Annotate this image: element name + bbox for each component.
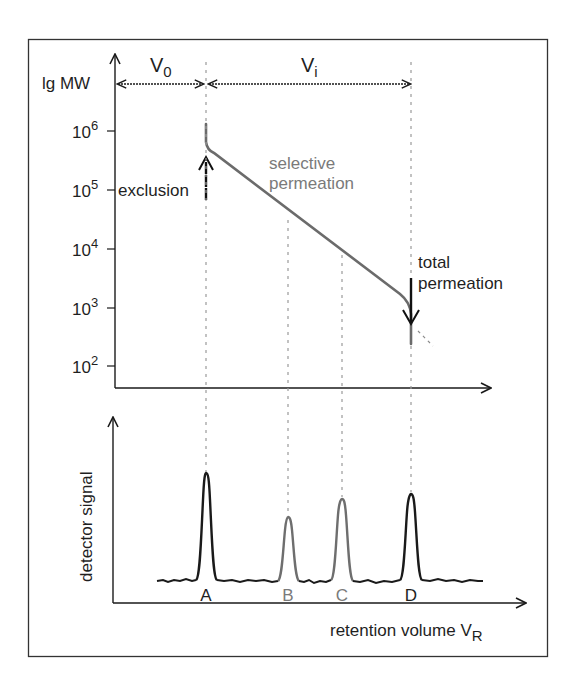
tick-label-1e3: 103 [72, 295, 98, 319]
tick-label-1e4: 104 [72, 236, 98, 260]
sec-diagram: 106 105 104 103 102 lg MW V0 Vi exclusio… [0, 0, 571, 686]
bottom-y-label: detector signal [77, 471, 96, 582]
curve-extrapolation [418, 331, 433, 346]
bottom-x-label: retention volume VR [330, 621, 483, 644]
peak-label-b: B [282, 586, 293, 605]
chromatogram-baseline-right [422, 579, 483, 582]
chromatogram-baseline-ab [217, 580, 278, 582]
y-ticks [107, 131, 115, 366]
peak-c [331, 499, 353, 581]
total-permeation-label-2: permeation [418, 274, 503, 293]
guide-lines [206, 62, 411, 514]
chromatogram-baseline-left [157, 579, 196, 582]
top-y-label: lg MW [42, 74, 90, 93]
v0-label: V0 [150, 54, 172, 80]
tick-label-1e2: 102 [72, 353, 98, 377]
peak-label-d: D [405, 586, 417, 605]
total-permeation-label-1: total [418, 253, 450, 272]
chromatogram-baseline-cd [353, 580, 400, 583]
exclusion-label: exclusion [118, 181, 189, 200]
tick-label-1e6: 106 [72, 118, 98, 142]
top-panel: 106 105 104 103 102 lg MW V0 Vi exclusio… [42, 54, 503, 388]
vi-label: Vi [301, 54, 318, 80]
selective-permeation-label-2: permeation [269, 174, 354, 193]
peak-a [196, 473, 217, 580]
peak-b [278, 517, 299, 581]
bottom-panel: detector signal A B C D retention volume… [77, 418, 525, 644]
peak-label-c: C [336, 586, 348, 605]
peak-d [400, 494, 422, 580]
y-tick-labels: 106 105 104 103 102 [72, 118, 98, 377]
chromatogram-baseline-bc [299, 580, 331, 583]
peak-label-a: A [200, 586, 212, 605]
selective-permeation-label-1: selective [269, 154, 335, 173]
tick-label-1e5: 105 [72, 177, 98, 201]
